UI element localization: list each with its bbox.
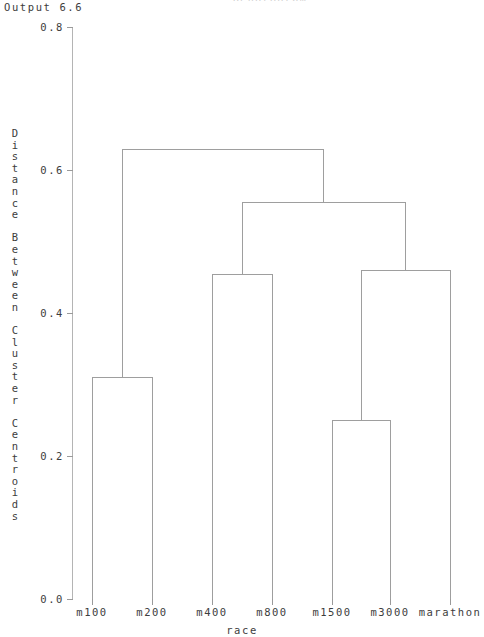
x-tick-label-m400: m400 [196, 606, 227, 618]
x-tick [212, 599, 213, 605]
dendrogram-plot [0, 0, 484, 637]
x-tick-label-m200: m200 [136, 606, 167, 618]
x-tick [332, 599, 333, 605]
merge-leg-right-m100-m200 [152, 377, 153, 599]
x-tick [152, 599, 153, 605]
x-tick-label-m800: m800 [256, 606, 287, 618]
merge-leg-left-m1500-m3000 [332, 420, 333, 599]
x-tick-label-m3000: m3000 [370, 606, 409, 618]
merge-bar-m1500-m3000 [332, 420, 390, 421]
merge-bar-m100-m200 [92, 377, 152, 378]
x-tick [92, 599, 93, 605]
merge-leg-right-root [323, 149, 324, 203]
merge-bar-root [122, 149, 323, 150]
x-tick [450, 599, 451, 605]
merge-leg-left-m400-m800 [212, 274, 213, 599]
merge-leg-right-m1500-m3000-marathon [450, 270, 451, 599]
x-tick-label-m100: m100 [76, 606, 107, 618]
merge-leg-right-m400-m800 [272, 274, 273, 599]
merge-leg-left-root [122, 149, 123, 378]
merge-leg-left-m100-m200 [92, 377, 93, 599]
merge-leg-left-m1500-m3000-marathon [361, 270, 362, 420]
merge-leg-left-mid-right-cluster [242, 202, 243, 274]
x-axis-title: race [0, 624, 484, 636]
x-tick [272, 599, 273, 605]
merge-bar-mid-right-cluster [242, 202, 405, 203]
x-tick-label-marathon: marathon [419, 606, 482, 618]
merge-bar-m400-m800 [212, 274, 272, 275]
dendrogram-page: Output 6.6 Dendrogram 0.00.20.40.60.8 Di… [0, 0, 484, 637]
x-tick-label-m1500: m1500 [312, 606, 351, 618]
x-tick [390, 599, 391, 605]
merge-leg-right-mid-right-cluster [405, 202, 406, 270]
merge-leg-right-m1500-m3000 [390, 420, 391, 599]
merge-bar-m1500-m3000-marathon [361, 270, 450, 271]
